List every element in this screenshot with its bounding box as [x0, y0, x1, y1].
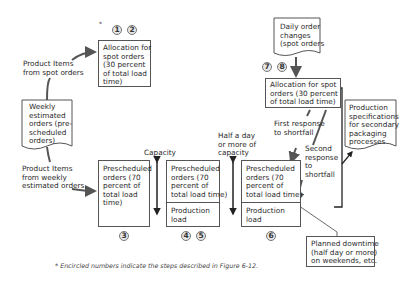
step-3-badge: 3 [119, 231, 129, 241]
prescheduled-production-box-step6: Prescheduled orders (70 percent of total… [241, 160, 301, 227]
footnote: * Encircled numbers indicate the steps d… [55, 262, 258, 269]
asterisk-note-marker: * [99, 20, 102, 29]
planned-downtime-text: Planned downtime (half day or more) on w… [311, 240, 379, 266]
allocation-spot-orders-box: Allocation for spot orders (30 percent o… [98, 40, 151, 87]
prescheduled-orders-text: Prescheduled orders (70 percent of total… [171, 165, 227, 199]
step-7-badge: 7 [262, 62, 272, 72]
step-6-badge: 6 [266, 231, 276, 241]
capacity-label: Capacity [144, 149, 176, 158]
product-items-spot-label: Product Items from spot orders [23, 60, 84, 77]
half-day-capacity-label: Half a day or more of capacity [218, 132, 256, 158]
prescheduled-orders-text: Prescheduled orders (70 percent of total… [103, 165, 152, 208]
production-load-text: Production load [171, 207, 210, 224]
daily-order-changes-doc: Daily order changes (spot orders [280, 23, 324, 49]
box-divider [167, 202, 219, 203]
allocation-spot-orders-text: Allocation for spot orders (30 percent o… [270, 81, 338, 107]
weekly-estimated-orders-doc: Weekly estimated orders (pre- scheduled … [29, 103, 72, 146]
production-specifications-doc: Production specifications for secondary … [349, 104, 399, 147]
product-items-weekly-label: Product Items from weekly estimated orde… [22, 165, 87, 191]
planned-downtime-box: Planned downtime (half day or more) on w… [306, 236, 375, 267]
box-divider [242, 202, 300, 203]
step-8-badge: 8 [277, 62, 287, 72]
allocation-spot-orders-box-right: Allocation for spot orders (30 percent o… [265, 78, 341, 108]
production-load-text: Production load [246, 207, 285, 224]
prescheduled-orders-box-step3: Prescheduled orders (70 percent of total… [98, 160, 150, 227]
step-2-badge: 2 [127, 25, 137, 35]
first-response-label: First response to shortfall [274, 120, 325, 137]
diagram-canvas: * 1 2 Allocation for spot orders (30 per… [0, 0, 416, 284]
step-1-badge: 1 [112, 25, 122, 35]
step-4-badge: 4 [181, 231, 191, 241]
allocation-spot-orders-text: Allocation for spot orders (30 percent o… [103, 44, 151, 87]
prescheduled-production-box-step45: Prescheduled orders (70 percent of total… [166, 160, 220, 227]
second-response-label: Second response to shortfall [305, 145, 338, 179]
prescheduled-orders-text: Prescheduled orders (70 percent of total… [246, 165, 302, 199]
step-5-badge: 5 [196, 231, 206, 241]
